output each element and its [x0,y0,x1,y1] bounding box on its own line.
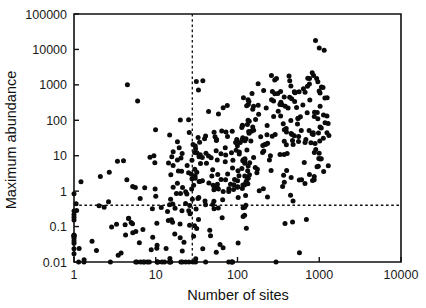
data-point [274,260,279,265]
data-point [200,246,205,251]
data-point [244,226,249,231]
data-point [196,217,201,222]
data-point [302,160,307,165]
data-point [319,84,324,89]
data-point [303,90,308,95]
data-point [133,229,138,234]
data-point [178,191,183,196]
data-point [220,197,225,202]
data-point [181,240,186,245]
data-point [211,187,216,192]
data-point [215,157,220,162]
data-point [223,130,228,135]
data-point [290,220,295,225]
data-point [190,197,195,202]
data-point [278,152,283,157]
data-point [197,179,202,184]
data-point [215,182,220,187]
data-point [155,260,160,265]
data-point [291,142,296,147]
data-point [318,125,323,130]
data-point [312,150,317,155]
data-point [317,45,322,50]
data-point [209,173,214,178]
data-point [241,95,246,100]
svg-text:100000: 100000 [25,8,67,22]
data-point [240,186,245,191]
data-point [281,121,286,126]
data-point [130,221,135,226]
data-point [167,132,172,137]
data-point [233,140,238,145]
data-point [149,247,154,252]
data-point [142,185,147,190]
data-point [192,223,197,228]
data-point [223,159,228,164]
data-point [324,130,329,135]
data-point [272,78,277,83]
data-point [220,215,225,220]
data-point [321,136,326,141]
data-point [264,105,269,110]
svg-text:10: 10 [149,268,163,282]
data-point [171,149,176,154]
data-point [265,123,270,128]
data-point [246,99,251,104]
data-point [167,202,172,207]
data-point [206,109,211,114]
data-point [140,227,145,232]
data-point [287,73,292,78]
data-point [313,141,318,146]
data-point [316,131,321,136]
data-point [267,158,272,163]
data-point [230,166,235,171]
data-point [138,196,143,201]
data-point [276,109,281,114]
data-point [297,89,302,94]
data-point [210,167,215,172]
data-point [180,260,185,265]
data-point [187,130,192,135]
data-point [253,165,258,170]
data-point [242,157,247,162]
data-point [171,185,176,190]
data-point [242,213,247,218]
data-point [223,177,228,182]
data-point [288,84,293,89]
data-point [225,172,230,177]
data-point [180,248,185,253]
data-point [108,260,113,265]
data-point [77,246,82,251]
data-point [207,228,212,233]
data-point [268,153,273,158]
data-point [311,73,316,78]
data-point [244,136,249,141]
data-point [313,38,318,43]
data-point [169,154,174,159]
data-point [124,177,129,182]
data-point [76,260,81,265]
data-point [180,151,185,156]
svg-text:1000: 1000 [39,78,67,92]
scatter-plot-figure: 110100100010000 0.010.111010010001000010… [0,0,426,308]
data-point [125,82,130,87]
data-point [225,103,230,108]
data-point [159,260,164,265]
data-point [305,110,310,115]
data-point [305,76,310,81]
data-point [254,170,259,175]
data-point [152,160,157,165]
data-point [256,103,261,108]
data-point [324,113,329,118]
data-point [282,95,287,100]
data-point [317,151,322,156]
data-point [316,156,321,161]
data-point [168,172,173,177]
data-point [308,140,313,145]
data-point [236,241,241,246]
data-point [235,178,240,183]
data-point [97,203,102,208]
data-point [230,158,235,163]
data-point [178,118,183,123]
data-point [198,161,203,166]
